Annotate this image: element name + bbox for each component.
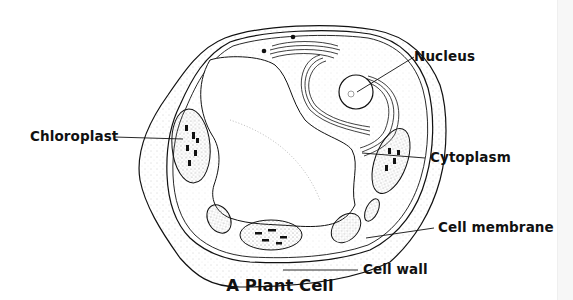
nucleus <box>339 75 373 109</box>
label-nucleus: Nucleus <box>414 48 475 64</box>
label-cytoplasm: Cytoplasm <box>430 149 511 165</box>
label-cell-wall: Cell wall <box>363 261 428 277</box>
label-chloroplast: Chloroplast <box>30 128 118 144</box>
label-cell-membrane: Cell membrane <box>438 219 554 235</box>
vesicle <box>262 49 267 54</box>
vesicle <box>291 35 296 40</box>
chloroplast-bottom <box>240 220 302 250</box>
diagram-title: A Plant Cell <box>0 276 566 295</box>
